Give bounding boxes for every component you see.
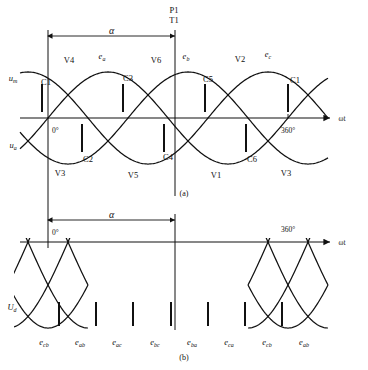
segment-label-eab: eab	[299, 337, 309, 348]
wave-label-ec: ec	[265, 49, 272, 60]
device-label-V6: V6	[151, 55, 161, 65]
trigger-label-p1: P1	[170, 5, 179, 15]
panel-b-360-label: 360°	[281, 225, 295, 234]
figure-container: eaebecumuaV4V6V2V3V5V1V3C1C3C5C1C2C4C6P1…	[0, 0, 368, 370]
panel-a-caption: (a)	[180, 189, 189, 198]
commutation-label-C1: C1	[41, 77, 51, 87]
device-label-V1: V1	[211, 170, 221, 180]
output-segment-arc	[248, 199, 328, 328]
device-label-V3: V3	[55, 168, 65, 178]
segment-label-eba: eba	[187, 337, 197, 348]
output-segment-arc	[8, 285, 88, 328]
device-label-V4: V4	[64, 55, 75, 65]
device-label-V3: V3	[281, 168, 291, 178]
panel-a-zero-label: 0°	[52, 126, 59, 135]
panel-b-axis-label: ωt	[338, 238, 346, 247]
output-voltage-label: Ud	[7, 302, 17, 313]
commutation-label-C6: C6	[247, 154, 257, 164]
device-label-V2: V2	[235, 54, 245, 64]
segment-label-ecb: ecb	[39, 337, 48, 348]
segment-label-ebc: ebc	[150, 337, 160, 348]
wave-label-eb: eb	[183, 51, 190, 62]
panel-a-axis-label: ωt	[338, 114, 346, 123]
axis-label-ua: ua	[9, 140, 16, 151]
output-segment-arc	[248, 199, 328, 328]
segment-label-ecb: ecb	[262, 337, 271, 348]
output-segment-arc	[248, 285, 328, 328]
commutation-label-C5: C5	[203, 74, 213, 84]
trigger-label-t1: T1	[169, 15, 178, 25]
panel-b	[0, 156, 330, 330]
commutation-label-C3: C3	[123, 73, 133, 83]
axis-label-um: um	[9, 73, 18, 84]
alpha-label-a: α	[109, 25, 115, 36]
commutation-label-C1: C1	[290, 75, 300, 85]
segment-label-eca: eca	[224, 337, 233, 348]
commutation-label-C2: C2	[83, 154, 93, 164]
alpha-label-b: α	[109, 209, 115, 220]
segment-label-eab: eab	[75, 337, 85, 348]
commutation-label-C4: C4	[163, 152, 174, 162]
wave-label-ea: ea	[99, 51, 106, 62]
segment-label-eac: eac	[112, 337, 122, 348]
waveform-figure: eaebecumuaV4V6V2V3V5V1V3C1C3C5C1C2C4C6P1…	[0, 0, 368, 370]
device-label-V5: V5	[128, 170, 138, 180]
panel-b-zero-label: 0°	[52, 228, 59, 237]
panel-b-firing-pulses	[59, 302, 282, 326]
panel-a-360-label: 360°	[281, 126, 295, 135]
panel-b-caption: (b)	[179, 353, 189, 362]
